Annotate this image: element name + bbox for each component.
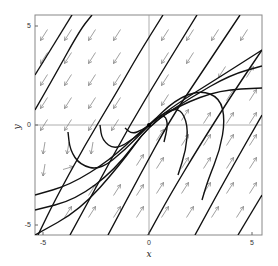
x-tick-neg5: -5 — [40, 239, 46, 246]
phase-portrait-chart: -5 0 5 5 0 -5 x y — [0, 0, 278, 266]
y-tick-neg5: -5 — [25, 221, 31, 228]
y-tick-0: 0 — [27, 121, 31, 128]
x-tick-0: 0 — [147, 239, 151, 246]
x-tick-5: 5 — [250, 239, 254, 246]
equilibrium-point — [147, 123, 151, 127]
y-axis-label: y — [12, 124, 22, 131]
y-tick-5: 5 — [27, 22, 31, 29]
x-axis-label: x — [146, 249, 151, 259]
